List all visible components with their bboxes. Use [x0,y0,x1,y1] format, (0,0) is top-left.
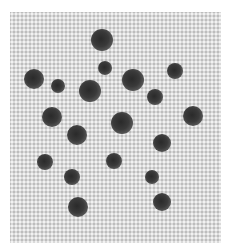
dark-spot [98,61,112,75]
dark-spot [91,29,113,51]
dark-spot [67,125,87,145]
dark-spot [153,193,171,211]
dark-spot [68,197,88,217]
dark-spot [153,134,171,152]
dark-spot [79,80,101,102]
dark-spot [37,154,53,170]
dark-spot [111,112,133,134]
dark-spot [106,153,122,169]
dark-spot [24,69,44,89]
dark-spot [167,63,183,79]
dark-spot [42,107,62,127]
dark-spot [183,106,203,126]
dark-spot [145,170,159,184]
dark-spot [147,89,163,105]
dark-spot [64,169,80,185]
dark-spot [122,69,144,91]
dark-spot [51,79,65,93]
